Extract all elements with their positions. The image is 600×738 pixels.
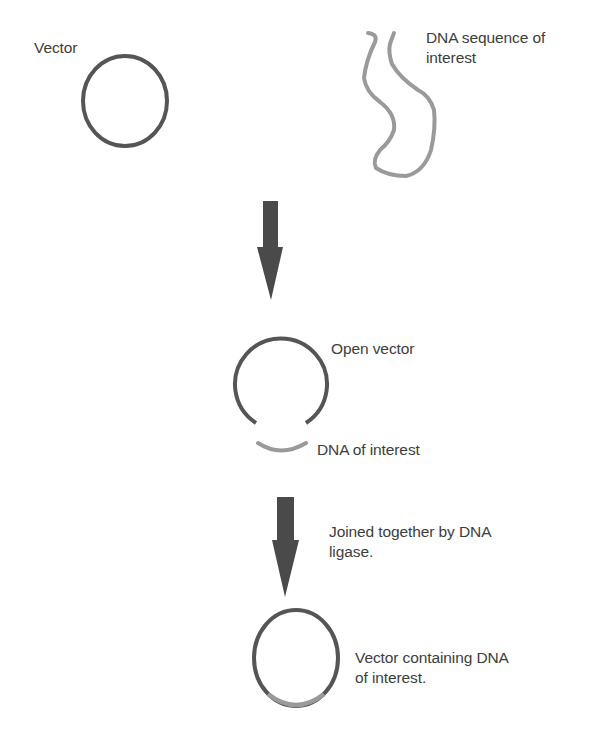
inserted-dna-segment <box>268 694 324 705</box>
recombinant-vector-circle <box>254 610 338 706</box>
down-arrow-icon <box>257 201 283 300</box>
open-vector-arc <box>235 338 327 423</box>
diagram-canvas: Vector DNA sequence of interest Open vec… <box>0 0 600 738</box>
dna-sequence-strand <box>364 33 435 176</box>
diagram-graphics <box>0 0 600 738</box>
dna-fragment-arc <box>258 443 306 451</box>
ligase-label: Joined together by DNA ligase. <box>329 522 491 562</box>
open-vector-label: Open vector <box>331 339 414 359</box>
result-label: Vector containing DNA of interest. <box>355 648 509 688</box>
dna-sequence-label: DNA sequence of interest <box>426 28 545 68</box>
vector-label: Vector <box>34 38 77 58</box>
vector-circle <box>83 56 167 146</box>
dna-of-interest-label: DNA of interest <box>317 440 420 460</box>
down-arrow-icon <box>272 497 299 597</box>
